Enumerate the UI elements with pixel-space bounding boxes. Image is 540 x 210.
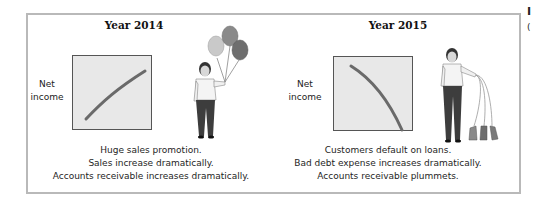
balloon-icon — [232, 40, 248, 60]
net-income-label-2015: Net income — [282, 78, 328, 104]
deflated-balloon-icon — [469, 126, 477, 140]
caption-line: Accounts receivable plummets. — [273, 170, 503, 183]
deflated-balloon-icon — [490, 126, 498, 140]
ylabel-line: Net — [24, 78, 70, 91]
net-income-chart-2014 — [72, 55, 152, 130]
ylabel-line: income — [24, 91, 70, 104]
clipped-margin-text: I — [527, 5, 531, 18]
caption-2014: Huge sales promotion. Sales increase dra… — [36, 144, 266, 183]
caption-2015: Customers default on loans. Bad debt exp… — [273, 144, 503, 183]
woman-with-balloons-figure — [183, 24, 263, 143]
ylabel-line: Net — [282, 78, 328, 91]
caption-line: Bad debt expense increases dramatically. — [273, 157, 503, 170]
caption-line: Sales increase dramatically. — [36, 157, 266, 170]
clipped-margin-text: ( — [527, 22, 531, 32]
decreasing-trend-line — [334, 57, 414, 132]
caption-line: Customers default on loans. — [273, 144, 503, 157]
balloon-icon — [208, 36, 224, 56]
panel-title-2015: Year 2015 — [328, 19, 468, 31]
increasing-trend-line — [73, 56, 153, 131]
deflated-balloon-icon — [480, 126, 487, 140]
net-income-chart-2015 — [333, 56, 413, 131]
net-income-label-2014: Net income — [24, 78, 70, 104]
caption-line: Accounts receivable increases dramatical… — [36, 170, 266, 183]
caption-line: Huge sales promotion. — [36, 144, 266, 157]
ylabel-line: income — [282, 91, 328, 104]
woman-with-deflated-balloons-figure — [440, 48, 502, 157]
